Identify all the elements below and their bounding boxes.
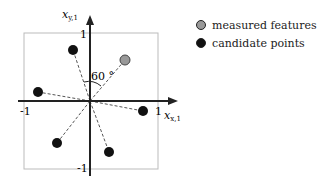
y-axis-label: xy,1 — [62, 8, 78, 22]
x-arrow-icon — [168, 97, 178, 105]
measured-point — [120, 55, 130, 65]
legend: measured features candidate points — [196, 16, 317, 52]
x-axis-label: xx,1 — [164, 109, 181, 123]
gray-dot-icon — [196, 20, 206, 30]
legend-item-candidate: candidate points — [196, 34, 317, 52]
legend-item-measured: measured features — [196, 16, 317, 34]
tick-x-pos: 1 — [155, 105, 162, 118]
black-dot-icon — [196, 38, 206, 48]
tick-x-neg: -1 — [20, 105, 31, 118]
tick-y-pos: 1 — [80, 28, 87, 41]
angle-label: 60 ° — [91, 70, 114, 83]
tick-y-neg: -1 — [77, 162, 88, 175]
y-arrow-icon — [86, 15, 94, 25]
